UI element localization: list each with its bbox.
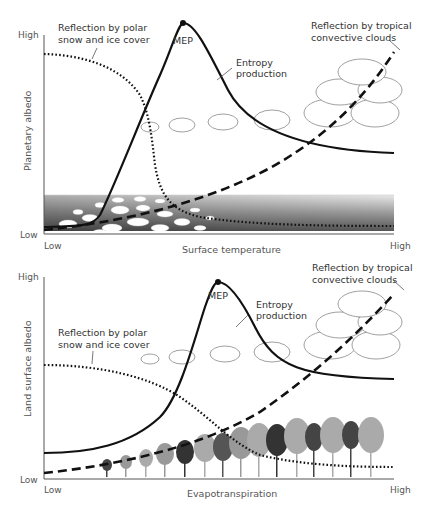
entropy-annotation-line2: production [236,68,287,79]
polar-annotation-line2: snow and ice cover [58,339,150,350]
panel-land-surface-albedo: Reflection by polar snow and ice cover M… [0,257,430,515]
entropy-annotation-line1: Entropy [256,299,293,310]
x-axis-label: Surface temperature [182,244,281,255]
panel-planetary-albedo: Reflection by polar snow and ice cover M… [0,0,430,257]
polar-annotation-line1: Reflection by polar [58,22,147,33]
entropy-annotation-line1: Entropy [236,57,273,68]
y-high-label: High [18,30,39,41]
leader-polar [92,48,97,59]
y-high-label: High [18,272,39,283]
cloud-small-1 [141,354,159,364]
polar-annotation-line2: snow and ice cover [58,34,150,45]
tropical-annotation-line1: Reflection by tropical [311,20,412,31]
tropical-annotation-line2: convective clouds [312,274,397,285]
x-axis-label: Evapotranspiration [187,488,277,499]
y-axis-label: Land surface albedo [22,321,33,418]
sea-ice-illustration [44,195,394,235]
cloud-small-2 [169,118,195,132]
x-high-label: High [390,485,411,496]
entropy-annotation-line2: production [256,310,307,321]
cloud-tower [304,59,402,127]
leader-entropy [236,315,248,327]
tropical-annotation-line2: convective clouds [311,32,396,43]
x-high-label: High [390,241,411,252]
cloud-small-3 [210,346,240,362]
cloud-small-3 [208,114,238,130]
y-axis-label: Planetary albedo [22,91,33,171]
polar-annotation-line1: Reflection by polar [58,327,147,338]
y-low-label: Low [20,230,38,241]
leader-polar [92,351,93,364]
mep-label: MEP [173,35,193,46]
mep-label: MEP [208,290,228,301]
mep-point [180,20,186,26]
cloud-small-4 [254,110,290,130]
tropical-annotation-line1: Reflection by tropical [312,262,413,273]
mep-point [215,279,221,285]
x-low-label: Low [44,485,62,496]
x-low-label: Low [44,241,62,252]
y-low-label: Low [20,475,38,486]
